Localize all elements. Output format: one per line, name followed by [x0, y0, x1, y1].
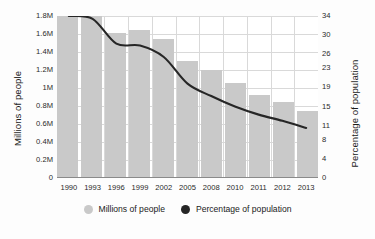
- y-tick-label-right: 4: [322, 154, 326, 163]
- y-tick-label-left: 0.8M: [36, 101, 53, 110]
- bar: [129, 30, 150, 178]
- y-tick-label-right: 34: [322, 11, 330, 20]
- bar: [177, 61, 198, 178]
- bar: [201, 70, 222, 178]
- legend-marker-circle-icon: [84, 205, 93, 214]
- chart-legend: Millions of peoplePercentage of populati…: [0, 204, 375, 214]
- y-tick-label-left: 1.8M: [36, 11, 53, 20]
- y-tick-label-right: 19: [322, 82, 330, 91]
- y-tick-label-right: 15: [322, 102, 330, 111]
- y-tick-label-left: 0.6M: [36, 119, 53, 128]
- y-tick-label-left: 0.4M: [36, 137, 53, 146]
- y-tick-label-right: 23: [322, 63, 330, 72]
- bar: [153, 39, 174, 178]
- y-tick-label-right: 30: [322, 30, 330, 39]
- bar: [249, 95, 270, 178]
- bar: [81, 16, 102, 178]
- y-tick-label-right: 26: [322, 49, 330, 58]
- y-tick-label-left: 1.4M: [36, 47, 53, 56]
- bar-series: [57, 16, 318, 178]
- legend-item[interactable]: Percentage of population: [181, 204, 292, 214]
- y-axis-title-right: Percentage of population: [349, 49, 360, 179]
- y-tick-label-left: 1.2M: [36, 65, 53, 74]
- bar: [297, 111, 318, 178]
- bar: [225, 83, 246, 178]
- plot-area: [57, 16, 318, 178]
- bar: [273, 102, 294, 179]
- x-tick-label: 2013: [290, 183, 322, 192]
- legend-label: Millions of people: [99, 204, 165, 214]
- y-tick-label-right: 11: [322, 121, 330, 130]
- y-tick-label-right: 8: [322, 135, 326, 144]
- y-axis-title-left: Millions of people: [12, 54, 23, 164]
- y-tick-label-right: 0: [322, 173, 326, 182]
- legend-label: Percentage of population: [196, 204, 292, 214]
- y-tick-label-left: 0: [49, 173, 53, 182]
- legend-item[interactable]: Millions of people: [84, 204, 165, 214]
- x-axis-line: [57, 177, 318, 178]
- legend-marker-circle-icon: [181, 205, 190, 214]
- y-tick-label-left: 1.6M: [36, 29, 53, 38]
- bar: [57, 16, 78, 178]
- y-tick-label-left: 1M: [42, 83, 53, 92]
- bar: [105, 33, 126, 178]
- y-tick-label-left: 0.2M: [36, 155, 53, 164]
- chart-container: Millions of people Percentage of populat…: [0, 0, 375, 239]
